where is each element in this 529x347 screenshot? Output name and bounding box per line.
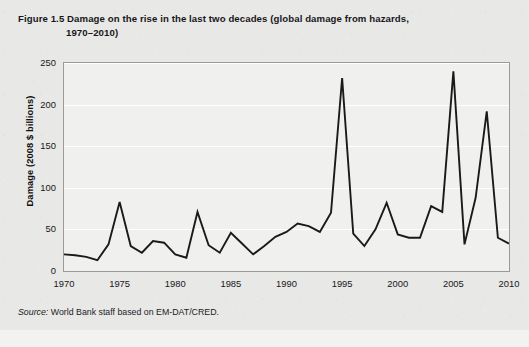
x-tick-label-2005: 2005 [433, 278, 473, 289]
y-axis-title: Damage (2008 $ billions) [25, 56, 35, 246]
x-tick-label-1970: 1970 [44, 278, 84, 289]
plot-area [63, 62, 510, 272]
x-tick-label-1985: 1985 [211, 278, 251, 289]
figure-root: Figure 1.5 Damage on the rise in the las… [0, 0, 529, 347]
chart-svg [64, 63, 509, 271]
source-text: World Bank staff based on EM-DAT/CRED. [48, 307, 219, 317]
x-tick-label-1990: 1990 [267, 278, 307, 289]
x-tick-label-2000: 2000 [378, 278, 418, 289]
figure-caption: Figure 1.5 Damage on the rise in the las… [18, 12, 514, 39]
x-tick-label-1995: 1995 [322, 278, 362, 289]
damage-line-series [64, 71, 509, 260]
figure-title-line1: Damage on the rise in the last two decad… [67, 13, 409, 24]
figure-number: Figure 1.5 [18, 13, 64, 24]
x-tick-label-1975: 1975 [100, 278, 140, 289]
y-tick-label-0: 0 [22, 265, 56, 276]
source-note: Source: World Bank staff based on EM-DAT… [18, 307, 219, 317]
x-tick-label-2010: 2010 [489, 278, 529, 289]
page-bottom-margin [0, 330, 529, 347]
figure-title-line2: 1970–2010) [66, 26, 514, 40]
source-label: Source: [18, 307, 48, 317]
x-tick-label-1980: 1980 [155, 278, 195, 289]
plot-inner [64, 63, 509, 271]
